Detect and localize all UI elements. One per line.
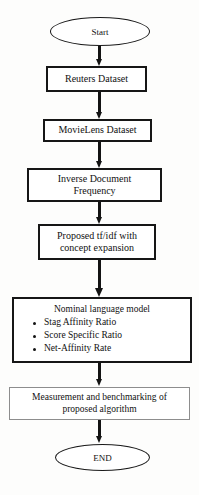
arrowhead-icon [96,379,102,386]
arrowhead-icon [96,59,102,66]
edge-shaft [98,46,101,59]
node-end: END [55,444,150,471]
edge-shaft [98,363,101,379]
edge-start-to-reuters [96,46,103,66]
list-item: Stag Affinity Ratio [44,317,190,328]
node-measurement-benchmarking-label: Measurement and benchmarking of proposed… [32,392,167,415]
list-item: Score Specific Ratio [44,330,190,341]
arrowhead-icon [96,436,102,443]
node-movielens-dataset: MovieLens Dataset [43,119,152,142]
edge-shaft [98,420,101,436]
edge-shaft [98,142,101,161]
node-start: Start [50,17,150,46]
flowchart-diagram: Start Reuters Dataset MovieLens Dataset … [0,0,199,495]
node-inverse-document-frequency-label: Inverse Document Frequency [58,173,132,197]
node-reuters-dataset-label: Reuters Dataset [65,73,128,85]
edge-shaft [98,260,101,288]
arrowhead-icon [96,217,102,224]
node-reuters-dataset: Reuters Dataset [46,66,147,92]
node-movielens-dataset-label: MovieLens Dataset [58,124,136,136]
node-end-label: END [93,453,112,463]
edge-shaft [98,202,101,217]
edge-idf-to-tfidf [96,202,103,224]
arrowhead-icon [96,161,102,168]
node-nominal-language-model: Nominal language model Stag Affinity Rat… [12,297,192,363]
node-proposed-tfidf: Proposed tf/idf with concept expansion [38,224,156,260]
node-proposed-tfidf-label: Proposed tf/idf with concept expansion [57,230,137,254]
arrowhead-icon [96,112,102,119]
edge-nlm-to-measurement [96,363,103,387]
edge-movielens-to-idf [96,142,103,168]
node-measurement-benchmarking: Measurement and benchmarking of proposed… [9,387,190,420]
edge-reuters-to-movielens [96,92,103,119]
node-start-label: Start [92,27,109,37]
edge-measurement-to-end [96,420,103,444]
node-inverse-document-frequency: Inverse Document Frequency [27,168,162,202]
list-item: Net-Affinity Rate [44,343,190,354]
edge-tfidf-to-nlm [96,260,103,297]
edge-shaft [98,92,101,112]
arrowhead-icon [95,288,103,297]
nominal-language-model-heading: Nominal language model [14,304,190,316]
nominal-language-model-bullet-list: Stag Affinity Ratio Score Specific Ratio… [14,317,190,354]
